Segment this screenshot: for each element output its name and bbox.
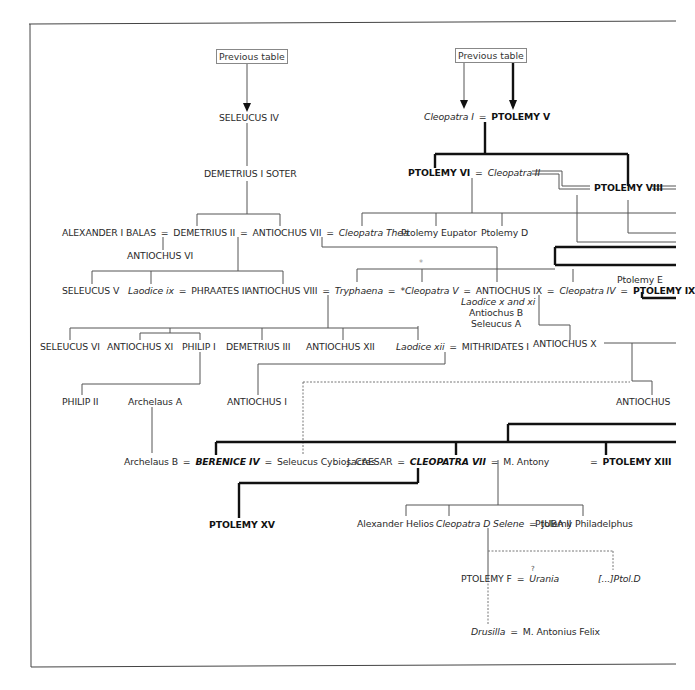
marriage-sign: = [461,285,473,296]
marriage-sign: = [508,626,520,637]
person-philip-ii: PHILIP II [62,396,98,407]
person-ptolemy-vi: PTOLEMY VI [408,167,470,178]
marriage-sign: = [588,456,600,467]
person-cleopatra-thea: Cleopatra Thea [339,227,409,238]
person-cleopatra-selene: Cleopatra D Selene [436,518,524,529]
person-archelaus-b: Archelaus B [124,456,178,467]
person-j-caesar: J. CAESAR [347,456,392,467]
person-m-antony: M. Antony [503,456,549,467]
couple-drusilla-felix: Drusilla = M. Antonius Felix [471,626,600,637]
person-ptolemy-xiii: = PTOLEMY XIII [588,456,671,467]
previous-table-link-ptolemaic[interactable]: Previous table [455,48,527,63]
person-antiochus-x: ANTIOCHUS X [533,338,596,349]
person-philip-i: PHILIP I [182,341,216,352]
star-marker: * [419,259,423,268]
person-seleucus-a: Seleucus A [461,318,531,329]
uncertain-marriage-mark: ? [531,565,535,573]
person-ptolemy-d: Ptolemy D [481,227,528,238]
couple-cleopatra-i-ptolemy-v: Cleopatra I = PTOLEMY V [424,111,550,122]
antiochus-ix-children: Laodice x and xi Antiochus B Seleucus A [461,296,531,329]
person-seleucus-vi: SELEUCUS VI [40,341,100,352]
person-antiochus-vi: ANTIOCHUS VI [127,250,193,261]
person-demetrius-iii: DEMETRIUS III [226,341,290,352]
person-ptolemy-viii: PTOLEMY VIII [594,182,663,193]
person-archelaus-a: Archelaus A [128,396,182,407]
person-ptolemy-e: Ptolemy E [617,274,663,285]
marriage-sign: = [324,227,336,238]
couple-archelaus-berenice-seleucus: Archelaus B = BERENICE IV = Seleucus Cyb… [124,456,376,467]
marriage-sign: = [181,456,193,467]
marriage-sign: = [489,456,501,467]
person-antiochus-viii: ANTIOCHUS VIII [246,285,317,296]
person-urania: Urania [529,573,559,584]
person-antiochus-b: Antiochus B [461,307,531,318]
person-mithridates-i: MITHRIDATES I [462,341,529,352]
person-ptol-d-fragment: [...]Ptol.D [598,573,641,584]
person-drusilla: Drusilla [471,626,505,637]
row-balas-demetrius-antiochus-vii: ALEXANDER I BALAS = DEMETRIUS II = ANTIO… [62,227,409,238]
person-berenice-iv: BERENICE IV [195,456,259,467]
person-antiochus-i: ANTIOCHUS I [227,396,287,407]
marriage-sign: = [477,111,489,122]
person-ptolemy-xv: PTOLEMY XV [209,519,275,530]
person-demetrius-ii: DEMETRIUS II [173,227,235,238]
person-antiochus-xii: ANTIOCHUS XII [306,341,375,352]
person-cleopatra-iv: Cleopatra IV [559,285,615,296]
person-antiochus-vii: ANTIOCHUS VII [253,227,322,238]
person-laodice-xii: Laodice xii [396,341,444,352]
person-seleucus-iv: SELEUCUS IV [219,112,279,123]
couple-ptolemy-vi-cleopatra-ii: PTOLEMY VI = Cleopatra II [408,167,540,178]
marriage-sign: = [473,167,485,178]
marriage-sign: = [262,456,274,467]
person-ptolemy-philadelphus: Ptolemy Philadelphus [535,518,633,529]
couple-ptolemy-f-urania: PTOLEMY F = Urania [461,573,559,584]
previous-table-link-seleucid[interactable]: Previous table [216,49,288,64]
person-ptolemy-f: PTOLEMY F [461,573,512,584]
person-ptolemy-eupator: Ptolemy Eupator [401,227,477,238]
marriage-sign: = [447,341,459,352]
person-antiochus-xi: ANTIOCHUS XI [107,341,173,352]
person-m-antonius-felix: M. Antonius Felix [523,626,600,637]
person-cleopatra-vii: CLEOPATRA VII [410,456,486,467]
row-antiochus-viii-tryphaena-cleopatra-v-antiochus-ix: ANTIOCHUS VIII = Tryphaena = *Cleopatra … [246,285,695,296]
marriage-sign: = [320,285,332,296]
person-ptolemy-v: PTOLEMY V [491,111,550,122]
marriage-sign: = [618,285,630,296]
person-antiochus-ix: ANTIOCHUS IX [476,285,542,296]
couple-caesar-cleopatra-vii-antony: J. CAESAR = CLEOPATRA VII = M. Antony [347,456,549,467]
marriage-sign: = [177,285,189,296]
person-laodice-x-xi: Laodice x and xi [461,296,531,307]
marriage-sign: = [515,573,527,584]
marriage-sign: = [238,227,250,238]
person-ptolemy-ix: PTOLEMY IX [633,285,695,296]
person-alexander-helios: Alexander Helios [357,518,434,529]
person-cleopatra-v: *Cleopatra V [400,285,458,296]
couple-laodice-xii-mithridates: Laodice xii = MITHRIDATES I [396,341,529,352]
couple-laodice-phraates: Laodice ix = PHRAATES II [128,285,247,296]
marriage-sign: = [395,456,407,467]
person-alexander-i-balas: ALEXANDER I BALAS [62,227,156,238]
person-demetrius-i-soter: DEMETRIUS I SOTER [204,168,297,179]
marriage-sign: = [386,285,398,296]
person-phraates-ii: PHRAATES II [191,285,247,296]
marriage-sign: = [159,227,171,238]
marriage-sign: = [545,285,557,296]
person-antiochus-xiii: ANTIOCHUS [616,396,670,407]
person-tryphaena: Tryphaena [335,285,383,296]
person-cleopatra-ii: Cleopatra II [488,167,540,178]
person-seleucus-v: SELEUCUS V [62,285,119,296]
person-laodice-ix: Laodice ix [128,285,174,296]
person-cleopatra-i: Cleopatra I [424,111,474,122]
